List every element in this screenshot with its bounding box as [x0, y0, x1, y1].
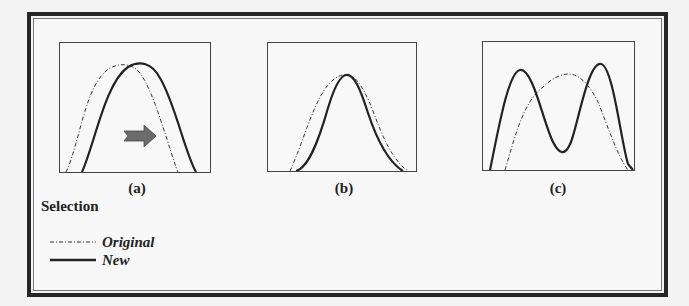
new-curve: [296, 75, 403, 171]
panel-b-plot: [268, 43, 416, 171]
legend-item-new: New: [50, 251, 130, 269]
panel-b: [267, 42, 417, 172]
caption-c: (c): [538, 180, 578, 197]
caption-a: (a): [117, 180, 157, 197]
original-curve: [290, 75, 408, 171]
new-curve: [490, 64, 633, 170]
panel-c: [482, 41, 635, 171]
caption-b: (b): [324, 180, 364, 197]
new-curve: [82, 63, 196, 172]
panel-a-plot: [60, 43, 210, 172]
legend-title: Selection: [41, 198, 99, 215]
dash-dot-line-icon: [50, 240, 96, 244]
panel-c-plot: [483, 42, 634, 170]
original-curve: [505, 74, 628, 170]
legend-item-original: Original: [50, 233, 155, 251]
panel-a: [59, 42, 211, 173]
solid-line-icon: [50, 258, 96, 262]
arrow-right-icon: [124, 125, 156, 147]
legend-label-new: New: [102, 252, 130, 269]
legend-label-original: Original: [102, 234, 155, 251]
